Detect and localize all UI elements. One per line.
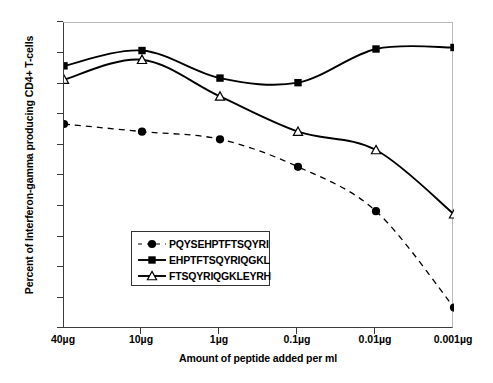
data-point-marker — [294, 79, 301, 86]
series-line — [64, 59, 454, 214]
data-point-marker — [216, 74, 223, 81]
chart-figure: Percent of Interferon-gamma producing CD… — [0, 0, 493, 383]
data-point-marker — [450, 44, 454, 51]
y-axis-title: Percent of Interferon-gamma producing CD… — [23, 15, 35, 315]
legend-item-label: PQYSEHPTFTSQYRI — [169, 238, 269, 250]
legend-marker-icon — [137, 253, 167, 267]
data-point-marker — [450, 303, 454, 311]
data-point-marker — [371, 145, 380, 153]
data-point-marker — [372, 45, 379, 52]
legend-marker-icon — [137, 269, 167, 283]
data-point-marker — [372, 207, 380, 215]
x-axis-title: Amount of peptide added per ml — [63, 352, 453, 364]
legend-item-label: FTSQYRIQGKLEYRH — [169, 270, 271, 282]
legend-item: PQYSEHPTFTSQYRI — [132, 236, 269, 252]
x-axis-tick-label: 10µg — [106, 333, 176, 345]
x-axis-tick-label: 1µg — [184, 333, 254, 345]
x-axis-tick-label: 0.001µg — [418, 333, 488, 345]
series-2 — [64, 44, 454, 87]
legend: PQYSEHPTFTSQYRIEHPTFTSQYRIQGKLFTSQYRIQGK… — [131, 231, 270, 286]
data-point-marker — [64, 120, 68, 128]
series-3 — [64, 55, 454, 218]
x-axis-tick-label: 40µg — [28, 333, 98, 345]
data-point-marker — [138, 128, 146, 136]
data-point-marker — [216, 135, 224, 143]
series-line — [64, 46, 454, 85]
legend-item-label: EHPTFTSQYRIQGKL — [169, 254, 270, 266]
data-point-marker — [64, 62, 68, 69]
data-point-marker — [138, 47, 145, 54]
legend-marker-icon — [137, 237, 167, 251]
x-axis-tick-label: 0.1µg — [262, 333, 332, 345]
legend-item: EHPTFTSQYRIQGKL — [132, 252, 269, 268]
data-point-marker — [294, 163, 302, 171]
x-axis-tick-label: 0.01µg — [340, 333, 410, 345]
data-point-marker — [215, 92, 224, 100]
legend-item: FTSQYRIQGKLEYRH — [132, 268, 269, 284]
